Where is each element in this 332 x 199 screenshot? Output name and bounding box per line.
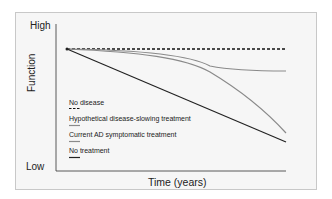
start-point (66, 48, 69, 51)
y-tick-low: Low (26, 161, 44, 172)
y-tick-high: High (30, 20, 51, 31)
series-no-treatment (67, 49, 286, 142)
legend-label-no-treatment: No treatment (69, 147, 109, 154)
legend-label-no-disease: No disease (69, 99, 104, 106)
y-axis-title: Function (26, 54, 37, 92)
legend-label-symptomatic: Current AD symptomatic treatment (69, 131, 176, 138)
legend-label-disease-slowing: Hypothetical disease-slowing treatment (69, 115, 191, 122)
x-axis-title: Time (years) (148, 176, 207, 188)
